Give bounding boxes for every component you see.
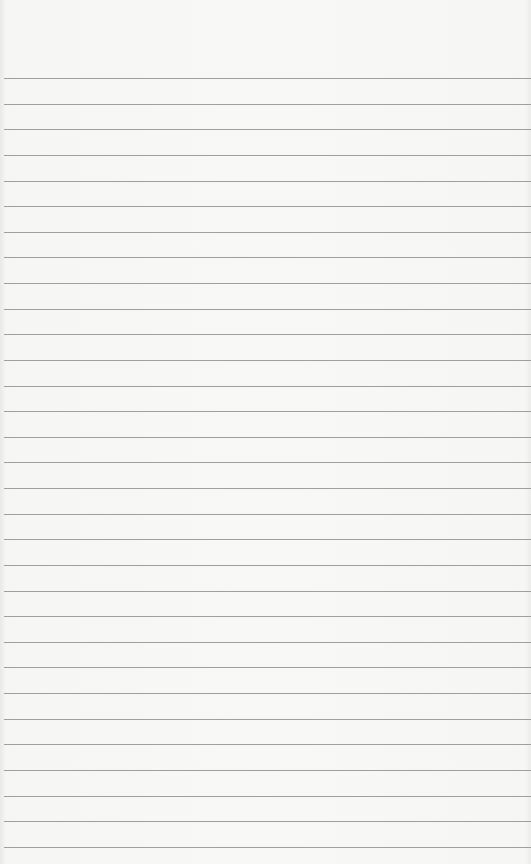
ruled-line bbox=[4, 283, 531, 284]
ruled-line bbox=[4, 437, 531, 438]
ruled-line bbox=[4, 693, 531, 694]
ruled-line bbox=[4, 386, 531, 387]
ruled-line bbox=[4, 462, 531, 463]
ruled-line bbox=[4, 744, 531, 745]
ruled-line bbox=[4, 360, 531, 361]
ruled-line bbox=[4, 309, 531, 310]
ruled-line bbox=[4, 181, 531, 182]
ruled-line bbox=[4, 257, 531, 258]
ruled-line bbox=[4, 155, 531, 156]
ruled-line bbox=[4, 770, 531, 771]
ruled-line bbox=[4, 796, 531, 797]
ruled-line bbox=[4, 539, 531, 540]
ruled-line bbox=[4, 104, 531, 105]
ruled-line bbox=[4, 334, 531, 335]
ruled-line bbox=[4, 591, 531, 592]
ruled-line bbox=[4, 642, 531, 643]
ruled-line bbox=[4, 129, 531, 130]
ruled-line bbox=[4, 616, 531, 617]
ruled-line bbox=[4, 514, 531, 515]
ruled-line bbox=[4, 847, 531, 848]
ruled-line bbox=[4, 78, 531, 79]
ruled-line bbox=[4, 565, 531, 566]
ruled-line bbox=[4, 667, 531, 668]
ruled-line bbox=[4, 232, 531, 233]
ruled-line bbox=[4, 488, 531, 489]
lined-paper bbox=[0, 0, 531, 864]
ruled-line bbox=[4, 719, 531, 720]
ruled-line bbox=[4, 821, 531, 822]
ruled-line bbox=[4, 206, 531, 207]
ruled-line bbox=[4, 411, 531, 412]
